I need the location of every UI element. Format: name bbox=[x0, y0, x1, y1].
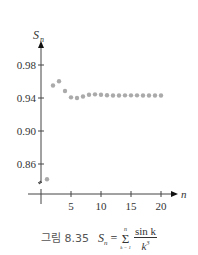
chart-svg: 0.98 0.94 0.90 0.86 5 10 15 20 S n n bbox=[0, 0, 198, 255]
data-point bbox=[93, 92, 97, 96]
data-point bbox=[153, 93, 157, 97]
data-point bbox=[45, 177, 49, 181]
y-axis-label: S bbox=[33, 28, 39, 42]
data-point bbox=[69, 95, 73, 99]
data-point bbox=[129, 93, 133, 97]
sum-symbol: n Σ k = 1 bbox=[120, 226, 131, 251]
data-point bbox=[135, 93, 139, 97]
ytick-label: 0.86 bbox=[17, 158, 37, 170]
data-point bbox=[141, 93, 145, 97]
data-point bbox=[99, 93, 103, 97]
y-axis-label-sub: n bbox=[40, 35, 44, 44]
data-point bbox=[147, 93, 151, 97]
data-point bbox=[57, 79, 61, 83]
data-point bbox=[87, 93, 91, 97]
data-point bbox=[105, 93, 109, 97]
data-point bbox=[117, 93, 121, 97]
xtick-label: 5 bbox=[68, 200, 74, 212]
xtick-label: 15 bbox=[126, 200, 138, 212]
figure-caption: 그림 8.35 Sn = n Σ k = 1 sin k k3 bbox=[0, 226, 198, 252]
sum-bottom: k = 1 bbox=[120, 244, 131, 251]
ytick-label: 0.98 bbox=[17, 59, 37, 71]
numerator: sin k bbox=[134, 226, 157, 238]
data-points bbox=[45, 79, 163, 181]
data-point bbox=[111, 93, 115, 97]
ytick-label: 0.90 bbox=[17, 125, 37, 137]
denominator-exp: 3 bbox=[146, 240, 149, 246]
figure-number: 그림 8.35 bbox=[41, 232, 89, 245]
xtick-label: 10 bbox=[96, 200, 108, 212]
x-axis-arrow-icon bbox=[171, 191, 178, 197]
fraction: sin k k3 bbox=[134, 226, 157, 252]
xtick-label: 20 bbox=[156, 200, 168, 212]
data-point bbox=[81, 94, 85, 98]
data-point bbox=[75, 96, 79, 100]
ytick-label: 0.94 bbox=[17, 92, 37, 104]
x-axis-label: n bbox=[181, 188, 187, 200]
data-point bbox=[159, 93, 163, 97]
data-point bbox=[123, 93, 127, 97]
data-point bbox=[51, 83, 55, 87]
formula-eq: = bbox=[108, 231, 121, 245]
data-point bbox=[63, 89, 67, 93]
